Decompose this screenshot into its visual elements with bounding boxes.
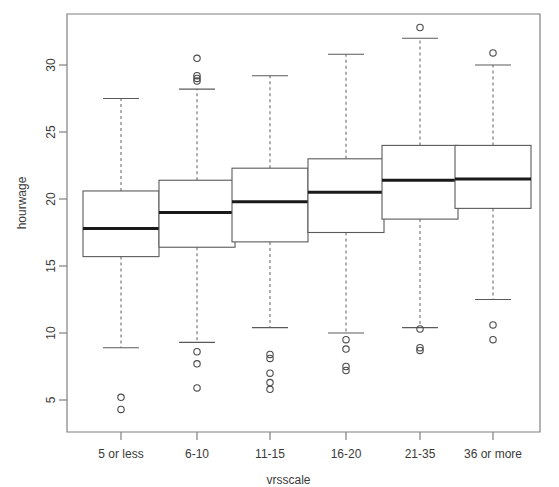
outlier-point	[194, 349, 200, 355]
x-tick-label: 6-10	[185, 447, 209, 461]
outlier-point	[267, 370, 273, 376]
outlier-point	[267, 379, 273, 385]
boxplot-box	[308, 54, 384, 373]
boxplot-figure: 51015202530hourwage 5 or less6-1011-1516…	[0, 0, 559, 487]
box-iqr-rect	[308, 159, 384, 233]
outlier-point	[343, 346, 349, 352]
box-series	[83, 24, 531, 412]
y-tick-label: 10	[44, 326, 58, 340]
x-tick-label: 16-20	[331, 447, 362, 461]
outlier-point	[194, 55, 200, 61]
x-tick-label: 5 or less	[98, 447, 143, 461]
x-tick-label: 21-35	[405, 447, 436, 461]
y-axis-title: hourwage	[15, 176, 29, 229]
y-tick-label: 25	[44, 125, 58, 139]
outlier-point	[267, 355, 273, 361]
outlier-point	[417, 326, 423, 332]
boxplot-box	[83, 99, 159, 413]
y-tick-label: 5	[44, 396, 58, 403]
x-axis-title: vrsscale	[266, 473, 310, 487]
outlier-point	[118, 406, 124, 412]
boxplot-box	[232, 76, 308, 393]
x-axis: 5 or less6-1011-1516-2021-3536 or morevr…	[98, 432, 522, 487]
boxplot-box	[455, 50, 531, 343]
boxplot-box	[159, 55, 235, 391]
y-tick-label: 15	[44, 259, 58, 273]
outlier-point	[118, 394, 124, 400]
outlier-point	[490, 50, 496, 56]
y-axis: 51015202530hourwage	[15, 58, 67, 403]
box-iqr-rect	[83, 191, 159, 257]
box-iqr-rect	[232, 168, 308, 242]
outlier-point	[490, 337, 496, 343]
outlier-point	[267, 386, 273, 392]
outlier-point	[194, 385, 200, 391]
x-tick-label: 11-15	[255, 447, 285, 461]
box-iqr-rect	[382, 145, 458, 219]
y-tick-label: 30	[44, 58, 58, 72]
outlier-point	[194, 361, 200, 367]
boxplot-canvas: 51015202530hourwage 5 or less6-1011-1516…	[0, 0, 559, 487]
box-iqr-rect	[455, 145, 531, 208]
outlier-point	[490, 322, 496, 328]
outlier-point	[343, 337, 349, 343]
outlier-point	[417, 24, 423, 30]
x-tick-label: 36 or more	[464, 447, 522, 461]
y-tick-label: 20	[44, 192, 58, 206]
outlier-point	[343, 367, 349, 373]
boxplot-box	[382, 24, 458, 353]
